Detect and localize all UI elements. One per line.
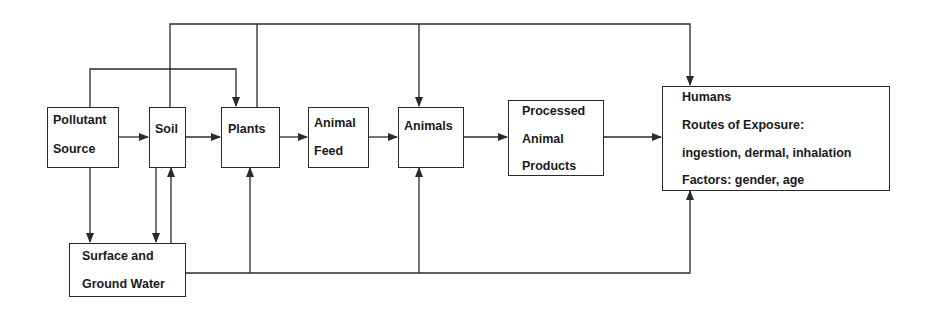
- node-soil: Soil: [149, 107, 186, 168]
- line-soil-up: [170, 24, 690, 107]
- node-pollutant-source: Pollutant Source: [47, 107, 119, 168]
- node-label: Ground Water: [82, 277, 165, 291]
- node-animal-feed: Animal Feed: [308, 107, 369, 168]
- node-label: Surface and: [82, 249, 154, 263]
- node-humans: Humans Routes of Exposure: ingestion, de…: [662, 86, 890, 191]
- node-label: Animals: [404, 119, 453, 133]
- node-label: Animal: [314, 116, 356, 130]
- arrow-pollutant-to-plants: [90, 69, 236, 107]
- node-label: Routes of Exposure:: [682, 118, 804, 132]
- node-label: Processed: [522, 104, 585, 118]
- node-animals: Animals: [398, 107, 464, 168]
- node-label: ingestion, dermal, inhalation: [682, 146, 851, 160]
- node-label: Pollutant: [53, 113, 106, 127]
- node-label: Animal: [522, 132, 564, 146]
- node-label: Products: [522, 159, 576, 173]
- node-label: Soil: [155, 122, 178, 136]
- node-plants: Plants: [221, 107, 280, 168]
- arrow-water-to-humans: [185, 191, 690, 273]
- node-label: Humans: [682, 90, 731, 104]
- node-label: Factors: gender, age: [682, 173, 804, 187]
- node-processed-animal-products: Processed Animal Products: [508, 100, 604, 176]
- node-label: Feed: [314, 144, 343, 158]
- node-surface-ground-water: Surface and Ground Water: [69, 243, 186, 297]
- node-label: Source: [53, 142, 95, 156]
- node-label: Plants: [228, 122, 266, 136]
